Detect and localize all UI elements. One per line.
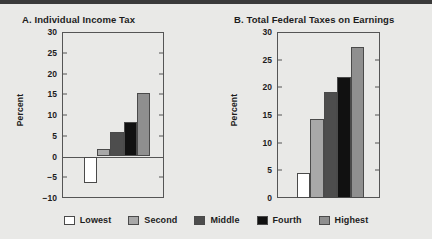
y-tick-mark bbox=[375, 115, 380, 116]
legend-item-fourth: Fourth bbox=[257, 215, 302, 225]
figure-canvas: A. Individual Income Tax Percent 3025201… bbox=[0, 0, 432, 239]
legend-swatch-icon bbox=[319, 216, 330, 225]
y-tick-label: 0 bbox=[267, 193, 272, 203]
bar-middle bbox=[324, 92, 337, 198]
bar-lowest bbox=[84, 157, 97, 184]
y-tick-mark bbox=[62, 52, 67, 53]
y-tick-mark bbox=[375, 142, 380, 143]
y-tick-label: 5 bbox=[267, 165, 272, 175]
y-tick-mark bbox=[277, 59, 282, 60]
panel-a-y-axis-label: Percent bbox=[15, 88, 25, 132]
y-tick-label: 0 bbox=[52, 152, 57, 162]
bar-highest bbox=[137, 93, 150, 156]
panel-a-title: A. Individual Income Tax bbox=[22, 14, 135, 25]
y-tick-mark bbox=[62, 94, 67, 95]
panel-b-y-axis-label: Percent bbox=[229, 88, 239, 132]
y-tick-label: 10 bbox=[263, 138, 272, 148]
y-tick-mark bbox=[277, 142, 282, 143]
legend-item-middle: Middle bbox=[194, 215, 239, 225]
y-tick-label: −10 bbox=[43, 193, 57, 203]
legend-swatch-icon bbox=[194, 216, 205, 225]
y-tick-mark bbox=[277, 115, 282, 116]
legend-label: Middle bbox=[210, 215, 239, 225]
legend-label: Lowest bbox=[80, 215, 112, 225]
y-tick-label: −5 bbox=[47, 172, 57, 182]
bar-second bbox=[310, 119, 323, 198]
legend-label: Second bbox=[144, 215, 177, 225]
y-tick-label: 30 bbox=[263, 27, 272, 37]
bar-fourth bbox=[124, 122, 137, 156]
y-tick-mark bbox=[159, 177, 164, 178]
y-tick-label: 5 bbox=[52, 131, 57, 141]
y-tick-mark bbox=[375, 170, 380, 171]
legend-swatch-icon bbox=[128, 216, 139, 225]
legend-label: Highest bbox=[335, 215, 369, 225]
legend-swatch-icon bbox=[257, 216, 268, 225]
legend-item-lowest: Lowest bbox=[64, 215, 112, 225]
y-tick-label: 20 bbox=[48, 69, 57, 79]
y-tick-mark bbox=[62, 177, 67, 178]
bar-second bbox=[97, 149, 110, 156]
y-tick-mark bbox=[277, 170, 282, 171]
y-tick-mark bbox=[159, 115, 164, 116]
bar-lowest bbox=[297, 173, 310, 198]
y-tick-label: 15 bbox=[263, 110, 272, 120]
y-tick-mark bbox=[375, 59, 380, 60]
chart-panel-b: B. Total Federal Taxes on Earnings Perce… bbox=[216, 0, 432, 208]
legend-label: Fourth bbox=[273, 215, 302, 225]
legend-swatch-icon bbox=[64, 216, 75, 225]
y-tick-label: 30 bbox=[48, 27, 57, 37]
panel-b-title: B. Total Federal Taxes on Earnings bbox=[234, 14, 394, 25]
y-tick-mark bbox=[62, 135, 67, 136]
zero-baseline bbox=[62, 157, 164, 158]
bar-highest bbox=[351, 47, 364, 198]
y-tick-mark bbox=[62, 115, 67, 116]
bar-middle bbox=[110, 132, 123, 156]
y-tick-label: 15 bbox=[48, 89, 57, 99]
legend-item-highest: Highest bbox=[319, 215, 369, 225]
y-tick-mark bbox=[159, 94, 164, 95]
y-tick-mark bbox=[159, 52, 164, 53]
y-tick-label: 10 bbox=[48, 110, 57, 120]
chart-legend: LowestSecondMiddleFourthHighest bbox=[0, 208, 432, 232]
y-tick-label: 25 bbox=[48, 48, 57, 58]
bar-fourth bbox=[337, 77, 350, 198]
chart-panel-a: A. Individual Income Tax Percent 3025201… bbox=[0, 0, 216, 208]
y-tick-label: 20 bbox=[263, 82, 272, 92]
y-tick-mark bbox=[62, 73, 67, 74]
y-tick-mark bbox=[159, 135, 164, 136]
y-tick-mark bbox=[159, 73, 164, 74]
y-tick-mark bbox=[277, 87, 282, 88]
legend-item-second: Second bbox=[128, 215, 177, 225]
y-tick-mark bbox=[375, 87, 380, 88]
y-tick-label: 25 bbox=[263, 55, 272, 65]
